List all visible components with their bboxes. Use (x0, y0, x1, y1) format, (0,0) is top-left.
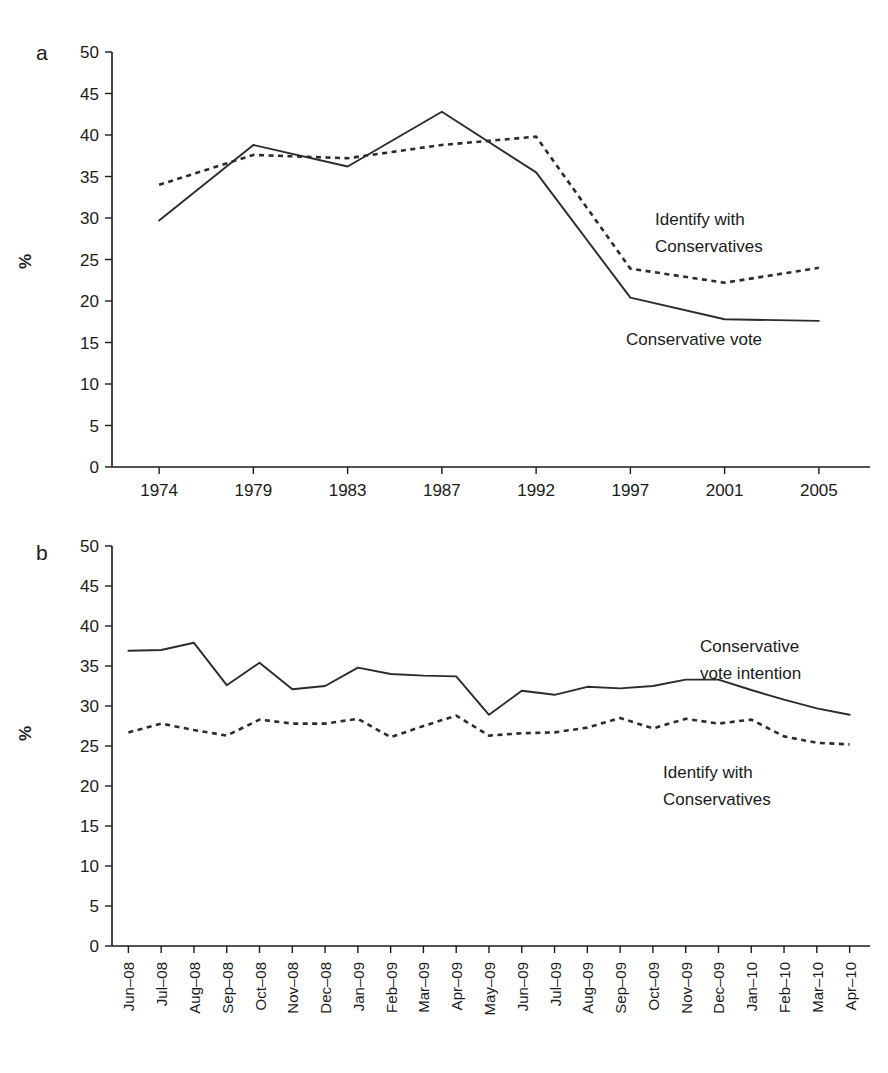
panel-a-x-tick-label: 1997 (611, 481, 649, 500)
panel-a-annotation-vote: Conservative vote (626, 330, 762, 349)
panel-a-y-tick-label: 35 (80, 168, 99, 187)
panel-b-x-tick-label: Aug–08 (186, 962, 203, 1014)
panel-b-x-tick-label: Jul–08 (153, 962, 170, 1006)
panel-b-y-tick-label: 25 (80, 737, 99, 756)
panel-b-y-tick-label: 40 (80, 617, 99, 636)
panel-b-x-tick-label: Oct–09 (645, 962, 662, 1010)
panel-b-y-tick-label: 45 (80, 577, 99, 596)
panel-b-x-tick-label: Sep–09 (612, 962, 629, 1014)
panel-a-plot: 0510152025303540455019741979198319871992… (0, 0, 888, 520)
panel-b-y-tick-label: 30 (80, 697, 99, 716)
panel-b-x-tick-label: Nov–09 (678, 962, 695, 1014)
panel-a-annotation-identify-line1: Identify with (655, 210, 745, 229)
panel-a-y-tick-label: 40 (80, 126, 99, 145)
panel-a-y-tick-label: 5 (90, 417, 99, 436)
panel-a-x-tick-label: 2001 (706, 481, 744, 500)
panel-b-annotation-identify-line2: Conservatives (663, 790, 771, 809)
panel-b-x-tick-label: Apr–10 (842, 962, 859, 1010)
panel-a-y-tick-label: 20 (80, 292, 99, 311)
panel-b-series-identify-with-conservatives (128, 716, 849, 745)
panel-b-x-tick-label: Dec–08 (317, 962, 334, 1014)
panel-b-x-tick-label: Nov–08 (284, 962, 301, 1014)
panel-a-y-tick-label: 0 (90, 458, 99, 477)
panel-b-x-tick-label: Aug–09 (579, 962, 596, 1014)
panel-a-y-tick-label: 25 (80, 251, 99, 270)
panel-a-x-tick-label: 1992 (517, 481, 555, 500)
panel-b-y-tick-label: 5 (90, 897, 99, 916)
panel-b-x-tick-label: Feb–10 (776, 962, 793, 1013)
panel-a-x-tick-label: 1983 (329, 481, 367, 500)
panel-b-x-tick-label: Oct–08 (252, 962, 269, 1010)
panel-b-x-tick-label: Dec–09 (710, 962, 727, 1014)
chart-panel-a: a % 051015202530354045501974197919831987… (0, 0, 888, 520)
panel-b-plot: 05101520253035404550Jun–08Jul–08Aug–08Se… (0, 520, 888, 1073)
panel-a-x-tick-label: 1987 (423, 481, 461, 500)
panel-b-y-tick-label: 50 (80, 537, 99, 556)
panel-a-annotation-identify-line2: Conservatives (655, 237, 763, 256)
panel-b-y-tick-label: 10 (80, 857, 99, 876)
figure-container: a % 051015202530354045501974197919831987… (0, 0, 888, 1073)
panel-b-y-tick-label: 15 (80, 817, 99, 836)
panel-a-y-tick-label: 45 (80, 85, 99, 104)
panel-b-annotation-vote-line2: vote intention (700, 664, 801, 683)
panel-b-x-tick-label: Mar–09 (415, 962, 432, 1013)
panel-b-x-tick-label: May–09 (481, 962, 498, 1015)
panel-b-x-tick-label: Feb–09 (383, 962, 400, 1013)
panel-a-x-tick-label: 2005 (800, 481, 838, 500)
panel-a-y-tick-label: 15 (80, 334, 99, 353)
panel-b-y-tick-label: 35 (80, 657, 99, 676)
panel-a-y-tick-label: 30 (80, 209, 99, 228)
panel-a-x-tick-label: 1979 (234, 481, 272, 500)
panel-b-annotation-vote-line1: Conservative (700, 637, 799, 656)
panel-b-x-tick-label: Jun–08 (120, 962, 137, 1011)
panel-b-annotation-identify-line1: Identify with (663, 763, 753, 782)
panel-b-x-tick-label: Jan–09 (350, 962, 367, 1011)
panel-b-y-tick-label: 0 (90, 937, 99, 956)
panel-a-y-tick-label: 10 (80, 375, 99, 394)
chart-panel-b: b % 05101520253035404550Jun–08Jul–08Aug–… (0, 520, 888, 1073)
panel-b-x-tick-label: Jul–09 (547, 962, 564, 1006)
panel-a-y-tick-label: 50 (80, 43, 99, 62)
panel-b-y-tick-label: 20 (80, 777, 99, 796)
panel-b-x-tick-label: Jan–10 (743, 962, 760, 1011)
panel-b-x-tick-label: Apr–09 (448, 962, 465, 1010)
panel-a-x-tick-label: 1974 (140, 481, 178, 500)
panel-b-x-tick-label: Mar–10 (809, 962, 826, 1013)
panel-b-x-tick-label: Jun–09 (514, 962, 531, 1011)
panel-b-x-tick-label: Sep–08 (219, 962, 236, 1014)
